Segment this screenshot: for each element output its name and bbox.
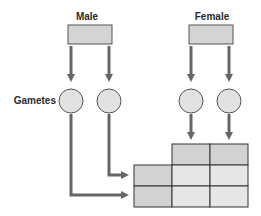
offspring-cell <box>172 186 210 207</box>
female-gamete-1 <box>179 89 203 113</box>
male-header-cell-1 <box>134 165 172 186</box>
female-gamete-2 <box>217 89 241 113</box>
punnett-square-diagram: Male Female Gametes <box>0 0 261 216</box>
female-label: Female <box>195 11 230 22</box>
offspring-cell <box>210 165 248 186</box>
offspring-cell <box>172 165 210 186</box>
male-gamete-2 <box>97 89 121 113</box>
female-header-cell-1 <box>172 144 210 165</box>
male-label: Male <box>76 11 99 22</box>
parent-to-gamete-arrows <box>71 46 229 78</box>
male-gamete-1 <box>59 89 83 113</box>
male-header-cell-2 <box>134 186 172 207</box>
female-parent-box <box>189 25 233 44</box>
male-parent-box <box>68 25 112 44</box>
arrow-icon <box>71 114 125 195</box>
punnett-grid <box>134 144 248 207</box>
offspring-cell <box>210 186 248 207</box>
gametes-label: Gametes <box>14 95 57 106</box>
female-header-cell-2 <box>210 144 248 165</box>
arrow-icon <box>109 114 125 175</box>
